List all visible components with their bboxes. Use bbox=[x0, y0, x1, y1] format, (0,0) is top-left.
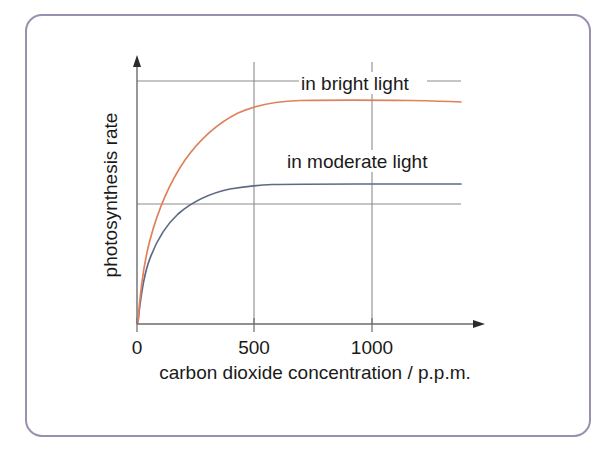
photosynthesis-co2-chart: in bright light in moderate light 0 500 … bbox=[0, 0, 607, 452]
series-line-in-bright-light bbox=[138, 100, 461, 322]
x-tick-label-0: 0 bbox=[132, 337, 143, 358]
annotation-in-moderate-light: in moderate light bbox=[287, 151, 428, 172]
y-axis-arrowhead-icon bbox=[133, 55, 141, 67]
figure-root: in bright light in moderate light 0 500 … bbox=[0, 0, 607, 452]
annotation-in-bright-light: in bright light bbox=[301, 73, 409, 94]
x-axis-title: carbon dioxide concentration / p.p.m. bbox=[159, 362, 471, 383]
series-line-in-moderate-light bbox=[138, 184, 461, 322]
y-axis-title: photosynthesis rate bbox=[100, 113, 121, 278]
x-tick-label-500: 500 bbox=[238, 337, 270, 358]
x-axis-arrowhead-icon bbox=[473, 320, 485, 328]
x-tick-label-1000: 1000 bbox=[351, 337, 393, 358]
